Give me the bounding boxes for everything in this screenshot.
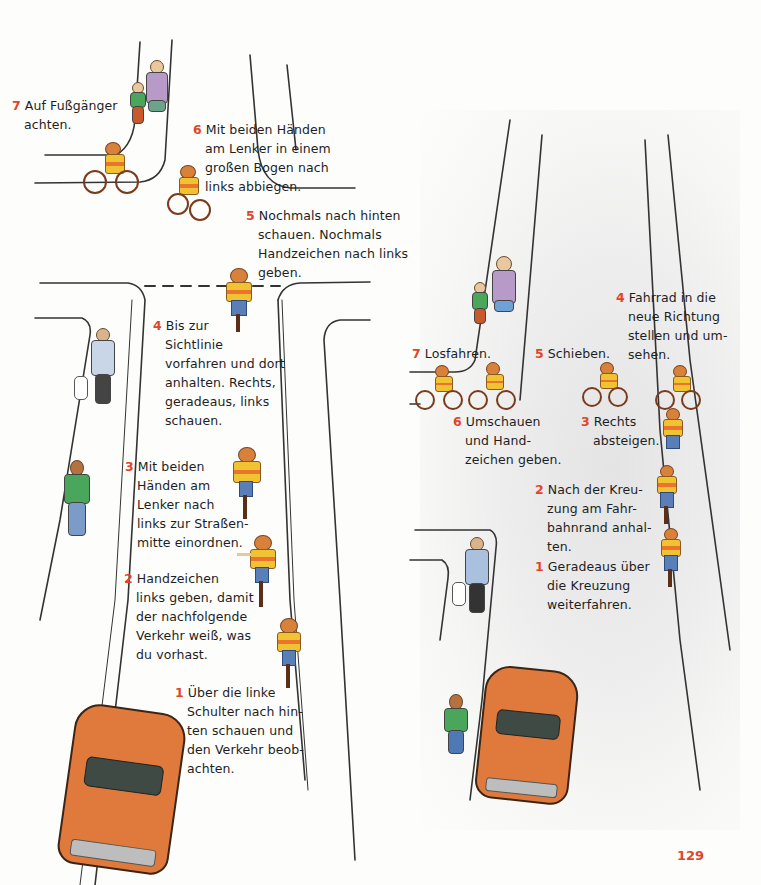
cyclist-icon xyxy=(83,142,138,194)
cyclist-icon xyxy=(468,362,518,410)
cyclist-icon xyxy=(655,365,701,410)
left-step-5: 5Nochmals nach hinten schauen. Nochmals … xyxy=(246,206,438,282)
pedestrian-icon xyxy=(470,256,520,331)
left-step-7: 7Auf Fußgänger achten. xyxy=(12,96,134,134)
cyclist-icon xyxy=(276,618,300,688)
cyclist-icon xyxy=(582,362,628,407)
left-step-3: 3Mit beiden Händen am Lenker nach links … xyxy=(125,457,277,552)
page-number: 129 xyxy=(677,848,704,863)
cyclist-icon xyxy=(415,365,465,410)
car-icon xyxy=(473,663,580,806)
left-step-4: 4Bis zur Sichtlinie vorfahren und dort a… xyxy=(153,316,305,430)
right-step-7: 7Losfahren. xyxy=(412,344,524,363)
pedestrian-icon xyxy=(88,328,118,408)
dog-icon xyxy=(74,376,88,400)
left-step-6: 6Mit beiden Händen am Lenker in einem gr… xyxy=(193,120,385,196)
right-step-2: 2Nach der Kreu- zung am Fahr- bahnrand a… xyxy=(535,480,667,556)
right-step-1: 1Geradeaus über die Kreuzung weiterfahre… xyxy=(535,557,667,614)
textbook-page: 7Auf Fußgänger achten. 6Mit beiden Hände… xyxy=(0,0,761,885)
right-step-3: 3Rechts absteigen. xyxy=(581,412,693,450)
dog-icon xyxy=(452,582,466,606)
car-icon xyxy=(55,701,188,877)
pedestrian-icon xyxy=(128,60,173,130)
right-step-4: 4Fahrrad in die neue Richtung stellen un… xyxy=(616,288,748,364)
left-step-1: 1Über die linke Schulter nach hin- ten s… xyxy=(175,683,317,778)
right-step-6: 6Umschauen und Hand- zeichen geben. xyxy=(453,412,585,469)
pedestrian-icon xyxy=(462,537,490,617)
left-step-2: 2Handzeichen links geben, damit der nach… xyxy=(124,569,276,664)
pedestrian-icon xyxy=(440,694,470,758)
pedestrian-icon xyxy=(60,460,94,540)
